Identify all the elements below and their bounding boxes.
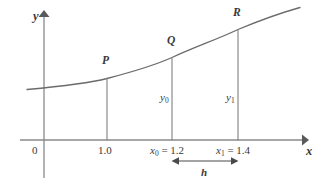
- x0-subscript: 0: [155, 149, 159, 158]
- y0-subscript: 0: [165, 96, 169, 105]
- point-label-q: Q: [167, 35, 175, 47]
- x-axis-label: x: [306, 145, 312, 158]
- point-label-r: R: [233, 7, 241, 19]
- x-tick-label-one: 1.0: [98, 145, 112, 156]
- ordinate-label-y1: y1: [226, 92, 235, 103]
- point-label-p: P: [102, 55, 109, 67]
- interval-label-h: h: [201, 167, 207, 178]
- ordinate-label-y0: y0: [160, 92, 169, 103]
- h-arrowhead-right: [231, 157, 239, 164]
- y-axis-arrowhead: [39, 10, 50, 17]
- h-arrowhead-left: [172, 157, 180, 164]
- x-tick-label-x0: x0 = 1.2: [150, 145, 184, 156]
- y-axis-label: y: [33, 10, 39, 23]
- function-curve: [27, 8, 300, 90]
- y1-subscript: 1: [231, 96, 235, 105]
- x1-subscript: 1: [221, 149, 225, 158]
- origin-label: 0: [32, 145, 38, 156]
- x0-equation: = 1.2: [159, 144, 184, 156]
- figure-canvas: y x 0 P Q R 1.0 x0 = 1.2 x1 = 1.4 y0 y1 …: [0, 0, 324, 187]
- x1-equation: = 1.4: [225, 144, 250, 156]
- x-tick-label-x1: x1 = 1.4: [216, 145, 250, 156]
